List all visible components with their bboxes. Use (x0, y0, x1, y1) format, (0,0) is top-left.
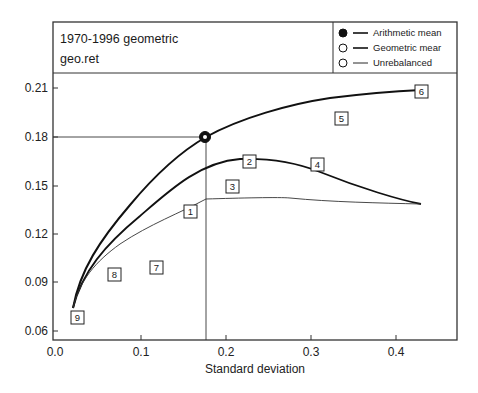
chart: 1970-1996 geometric geo.ret Arithmetic m… (0, 0, 478, 393)
plot-frame (53, 22, 457, 340)
x-tick-label: 0.3 (303, 345, 320, 359)
y-tick-label: 0.21 (25, 81, 49, 95)
y-tick-label: 0.18 (25, 130, 49, 144)
legend-label-geometric: Geometric mear (373, 42, 441, 53)
svg-text:3: 3 (230, 181, 235, 192)
chart-subtitle: geo.ret (60, 52, 99, 66)
y-tick-label: 0.15 (25, 179, 49, 193)
point-label-2: 2 (243, 155, 256, 168)
svg-text:5: 5 (339, 113, 344, 124)
point-label-8: 8 (108, 268, 121, 281)
svg-text:2: 2 (247, 156, 252, 167)
chart-title: 1970-1996 geometric (60, 32, 178, 46)
x-tick-label: 0.4 (388, 345, 405, 359)
point-label-4: 4 (311, 158, 324, 171)
svg-text:4: 4 (315, 159, 320, 170)
y-tick-label: 0.12 (25, 227, 49, 241)
open-circle-icon (339, 44, 347, 52)
point-label-5: 5 (335, 112, 348, 125)
point-label-6: 6 (415, 85, 428, 98)
x-axis: 0.0 0.1 0.2 0.3 0.4 Standard deviation (47, 335, 405, 376)
point-label-9: 9 (71, 311, 84, 324)
x-axis-title: Standard deviation (205, 362, 305, 376)
y-tick-label: 0.06 (25, 324, 49, 338)
open-circle-icon (339, 59, 347, 67)
legend-label-arithmetic: Arithmetic mean (373, 27, 442, 38)
legend-label-unrebalanced: Unrebalanced (373, 57, 432, 68)
point-label-7: 7 (150, 261, 163, 274)
x-tick-label: 0.1 (133, 345, 150, 359)
filled-circle-icon (339, 29, 347, 37)
point-label-3: 3 (226, 180, 239, 193)
svg-text:7: 7 (154, 262, 159, 273)
x-tick-label: 0.0 (47, 345, 64, 359)
svg-text:1: 1 (188, 206, 193, 217)
x-tick-label: 0.2 (218, 345, 235, 359)
svg-text:6: 6 (419, 86, 424, 97)
optimum-marker-center (203, 135, 207, 139)
y-tick-label: 0.09 (25, 275, 49, 289)
svg-text:8: 8 (112, 269, 117, 280)
svg-text:9: 9 (75, 312, 80, 323)
point-label-1: 1 (184, 205, 197, 218)
